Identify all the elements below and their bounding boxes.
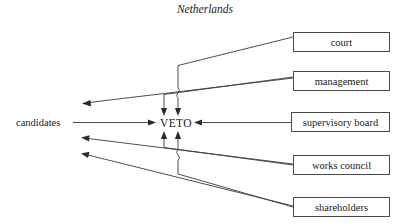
arrowhead-court-to-veto [175,108,181,116]
diagram-canvas: Netherlands court management supervisory… [0,0,411,224]
edge-shareholders-to-veto-lower [178,160,293,207]
edge-management-to-veto [164,77,293,111]
node-label-works-council: works council [312,160,371,171]
arrowhead-candidates-to-veto [148,119,156,125]
node-label-management: management [315,76,369,87]
node-label-candidates: candidates [16,117,60,128]
edge-works-council-to-veto [164,137,293,165]
arrowhead-shareholders-to-veto [175,131,181,139]
arrowhead-supervisory-board-to-veto [194,119,202,125]
node-box-supervisory-board[interactable]: supervisory board [292,113,390,132]
edge-works-council-to-candidates [88,139,293,165]
figure-title: Netherlands [176,3,234,15]
node-label-court: court [331,37,353,48]
arrowhead-works-council-to-veto [161,131,167,139]
node-label-shareholders: shareholders [315,202,368,213]
center-label-veto: VETO [160,117,192,129]
edge-shareholders-line-hop [177,137,180,160]
arrowhead-court-to-candidates [82,100,91,106]
edge-shareholders-to-candidates [88,155,293,206]
node-box-court[interactable]: court [294,33,390,52]
node-label-supervisory-board: supervisory board [303,117,379,128]
node-box-shareholders[interactable]: shareholders [294,198,390,217]
node-box-works-council[interactable]: works council [294,156,390,175]
node-box-management[interactable]: management [294,72,390,91]
arrowhead-works-council-to-candidates [81,135,90,141]
arrowhead-shareholders-to-candidates [81,152,90,158]
arrowhead-management-to-veto [161,108,167,116]
edge-court-to-candidates [89,78,293,103]
netherlands-governance-diagram: Netherlands court management supervisory… [0,0,411,224]
